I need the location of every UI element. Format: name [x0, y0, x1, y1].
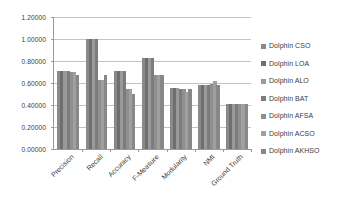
plot-region: 0.000000.200000.400000.600000.800001.000…: [0, 0, 258, 209]
legend-swatch-icon: [261, 149, 266, 154]
bar[interactable]: [76, 75, 79, 149]
bar-group: [57, 17, 78, 149]
y-axis-tick-label: 0.40000: [21, 102, 46, 109]
legend-item[interactable]: Dolphin CSO: [261, 41, 310, 51]
legend-swatch-icon: [261, 61, 266, 66]
y-axis-tick-label: 0.80000: [21, 58, 46, 65]
x-tickmark: [251, 149, 252, 152]
y-axis-tick-label: 0.60000: [21, 80, 46, 87]
legend-swatch-icon: [261, 114, 266, 119]
x-axis: PrecisionRecallAccuracyF-MeasureModulari…: [53, 149, 250, 209]
legend-label: Dolphin AKHSO: [269, 147, 319, 155]
y-axis-tick-label: 1.20000: [21, 14, 46, 21]
legend-item[interactable]: Dolphin ACSO: [261, 129, 315, 139]
bar[interactable]: [104, 75, 107, 149]
y-axis: 0.000000.200000.400000.600000.800001.000…: [2, 11, 49, 151]
bar[interactable]: [188, 89, 191, 150]
bar-group: [170, 17, 191, 149]
bar[interactable]: [216, 85, 219, 149]
legend-label: Dolphin LOA: [269, 60, 309, 68]
bar-group: [142, 17, 163, 149]
chart-legend: Dolphin CSODolphin LOADolphin ALODolphin…: [258, 41, 341, 169]
legend-item[interactable]: Dolphin LOA: [261, 59, 309, 69]
legend-label: Dolphin CSO: [269, 42, 310, 50]
bar-chart: 0.000000.200000.400000.600000.800001.000…: [0, 0, 341, 209]
legend-swatch-icon: [261, 79, 266, 84]
y-axis-tick-label: 0.20000: [21, 124, 46, 131]
x-axis-tick-label: Precision: [0, 153, 76, 209]
legend-label: Dolphin ACSO: [269, 130, 315, 138]
bar-group: [86, 17, 107, 149]
legend-item[interactable]: Dolphin AFSA: [261, 111, 313, 121]
y-axis-tick-label: 0.00000: [21, 146, 46, 153]
bar-group: [226, 17, 247, 149]
legend-item[interactable]: Dolphin ALO: [261, 76, 309, 86]
legend-swatch-icon: [261, 131, 266, 136]
bar-group: [114, 17, 135, 149]
bar-group: [198, 17, 219, 149]
plot-area: [53, 17, 251, 150]
legend-item[interactable]: Dolphin AKHSO: [261, 146, 319, 156]
legend-swatch-icon: [261, 44, 266, 49]
bars-layer: [54, 17, 251, 149]
bar[interactable]: [160, 75, 163, 149]
bar[interactable]: [245, 104, 248, 149]
legend-label: Dolphin BAT: [269, 95, 308, 103]
legend-swatch-icon: [261, 96, 266, 101]
y-axis-tick-label: 1.00000: [21, 36, 46, 43]
legend-label: Dolphin AFSA: [269, 112, 313, 120]
legend-item[interactable]: Dolphin BAT: [261, 94, 308, 104]
legend-label: Dolphin ALO: [269, 77, 309, 85]
bar[interactable]: [132, 94, 135, 149]
